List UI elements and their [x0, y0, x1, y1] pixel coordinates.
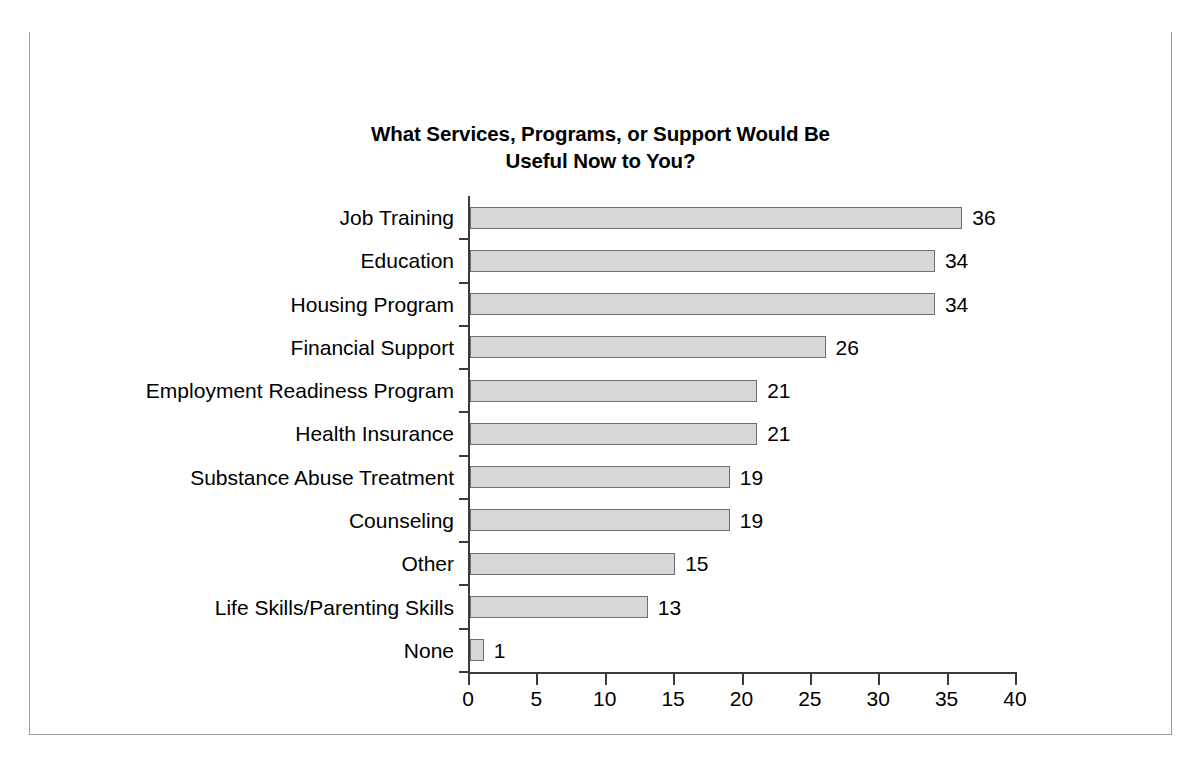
bar-series: Job Training36Education34Housing Program… [468, 196, 1015, 672]
x-axis-tick [536, 674, 538, 685]
chart-title-line-1: What Services, Programs, or Support Woul… [29, 120, 1172, 147]
category-label: Job Training [340, 207, 454, 228]
bar-row: Employment Readiness Program21 [468, 369, 1015, 412]
bar-row: Education34 [468, 239, 1015, 282]
x-axis-tick [810, 674, 812, 685]
bar-value-label: 26 [836, 337, 859, 358]
bar [470, 293, 935, 315]
x-axis-tick [673, 674, 675, 685]
bar-row: Health Insurance21 [468, 412, 1015, 455]
bar [470, 596, 648, 618]
chart-container: What Services, Programs, or Support Woul… [29, 89, 1172, 735]
x-axis-tick-label: 5 [531, 688, 543, 709]
y-axis-tick [459, 238, 468, 240]
x-axis-tick-label: 20 [730, 688, 753, 709]
y-axis-tick [459, 368, 468, 370]
category-label: Life Skills/Parenting Skills [215, 597, 454, 618]
x-axis-tick-label: 10 [593, 688, 616, 709]
plot-area: Job Training36Education34Housing Program… [468, 196, 1015, 672]
bar-value-label: 13 [658, 597, 681, 618]
chart-title: What Services, Programs, or Support Woul… [29, 120, 1172, 174]
bar-value-label: 19 [740, 467, 763, 488]
category-label: Financial Support [291, 337, 454, 358]
x-axis-tick [742, 674, 744, 685]
category-label: Counseling [349, 510, 454, 531]
x-axis-tick [878, 674, 880, 685]
y-axis-tick [459, 671, 468, 673]
bar [470, 509, 730, 531]
bar [470, 466, 730, 488]
bar [470, 336, 826, 358]
category-label: Health Insurance [295, 423, 454, 444]
y-axis-tick [459, 455, 468, 457]
bar-row: Life Skills/Parenting Skills13 [468, 585, 1015, 628]
bar-value-label: 1 [494, 640, 506, 661]
x-axis-tick [1015, 674, 1017, 685]
x-axis-tick-labels: 0510152025303540 [468, 688, 1017, 716]
bar-value-label: 19 [740, 510, 763, 531]
x-axis-tick-label: 25 [798, 688, 821, 709]
x-axis-tick [468, 674, 470, 685]
category-label: Housing Program [291, 294, 454, 315]
bar [470, 423, 757, 445]
y-axis-tick [459, 498, 468, 500]
bar-row: Housing Program34 [468, 283, 1015, 326]
chart-title-line-2: Useful Now to You? [29, 147, 1172, 174]
x-axis-tick-label: 0 [462, 688, 474, 709]
category-label: Other [401, 553, 454, 574]
bar-value-label: 21 [767, 380, 790, 401]
bar [470, 207, 962, 229]
y-axis-tick [459, 541, 468, 543]
bar-value-label: 36 [972, 207, 995, 228]
bar-row: None1 [468, 629, 1015, 672]
x-axis-tick [605, 674, 607, 685]
x-axis-tick-label: 15 [661, 688, 684, 709]
category-label: None [404, 640, 454, 661]
bar-value-label: 15 [685, 553, 708, 574]
y-axis-tick [459, 584, 468, 586]
bar-row: Other15 [468, 542, 1015, 585]
bar [470, 639, 484, 661]
category-label: Substance Abuse Treatment [190, 467, 454, 488]
x-axis-ticks [468, 674, 1017, 686]
bar-row: Counseling19 [468, 499, 1015, 542]
bar-value-label: 21 [767, 423, 790, 444]
category-label: Employment Readiness Program [146, 380, 454, 401]
y-axis-tick [459, 411, 468, 413]
bar-row: Financial Support26 [468, 326, 1015, 369]
bar [470, 250, 935, 272]
y-axis-tick [459, 325, 468, 327]
bar-row: Job Training36 [468, 196, 1015, 239]
x-axis-tick-label: 40 [1003, 688, 1026, 709]
x-axis-tick-label: 35 [935, 688, 958, 709]
bar-value-label: 34 [945, 250, 968, 271]
y-axis-tick [459, 628, 468, 630]
x-axis-tick [947, 674, 949, 685]
bar-value-label: 34 [945, 294, 968, 315]
bar [470, 553, 675, 575]
y-axis-tick [459, 282, 468, 284]
bar [470, 380, 757, 402]
bar-row: Substance Abuse Treatment19 [468, 456, 1015, 499]
category-label: Education [361, 250, 454, 271]
x-axis-tick-label: 30 [867, 688, 890, 709]
